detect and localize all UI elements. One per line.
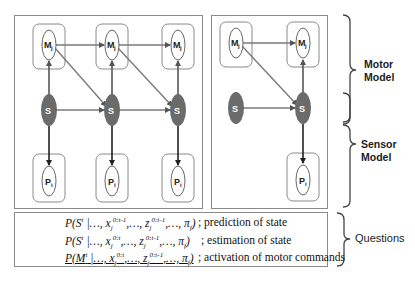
svg-text:j: j bbox=[304, 43, 307, 49]
question-formula: P(Mt |…, xj0:t,…, zj0:t-1,…, πf) bbox=[65, 251, 194, 267]
sensor-model-brace bbox=[343, 125, 356, 207]
svg-text:j: j bbox=[237, 43, 240, 49]
questions-box: P(St |…, xj0:t-1,…, zj0:t-1,…, πf) ; pre… bbox=[14, 212, 328, 267]
question-row: P(St |…, xj0:t-1,…, zj0:t-1,…, πf) ; pre… bbox=[15, 216, 327, 234]
question-description: ; estimation of state bbox=[201, 234, 291, 246]
svg-text:S: S bbox=[174, 106, 180, 116]
question-formula: P(St |…, xj0:t,…, zj0:t-1,…, πf) bbox=[65, 234, 190, 250]
state-overlap-brace bbox=[343, 93, 350, 122]
svg-text:S: S bbox=[108, 106, 114, 116]
question-description: ; prediction of state bbox=[198, 216, 287, 228]
svg-text:j: j bbox=[50, 45, 53, 51]
svg-text:j: j bbox=[179, 45, 182, 51]
sensor-model-label: Sensor Model bbox=[361, 138, 397, 164]
svg-text:S: S bbox=[45, 106, 51, 116]
motor-model-label: Motor Model bbox=[364, 58, 394, 84]
svg-text:S: S bbox=[232, 104, 238, 114]
question-row: P(Mt |…, xj0:t,…, zj0:t-1,…, πf) ; activ… bbox=[15, 251, 327, 269]
svg-text:S: S bbox=[299, 104, 305, 114]
question-description: ; activation of motor commands bbox=[198, 251, 345, 263]
question-formula: P(St |…, xj0:t-1,…, zj0:t-1,…, πf) bbox=[65, 216, 196, 232]
svg-text:j: j bbox=[113, 45, 116, 51]
question-row: P(St |…, xj0:t,…, zj0:t-1,…, πf) ; estim… bbox=[15, 234, 327, 252]
questions-label: Questions bbox=[355, 232, 405, 244]
